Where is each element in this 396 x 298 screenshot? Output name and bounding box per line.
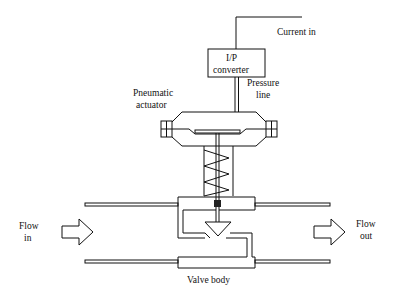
ip-label-line2: converter: [213, 65, 250, 75]
flow-out-label-line2: out: [360, 231, 373, 241]
flow-in-arrow: [62, 219, 93, 245]
flow-in-label-line1: Flow: [19, 221, 39, 231]
pressure-line: [235, 77, 239, 112]
pressure-label-line1: Pressure: [247, 78, 279, 88]
valve-plug: [205, 222, 231, 236]
pressure-label-line2: line: [256, 90, 270, 100]
ip-converter: I/P converter: [208, 49, 265, 77]
actuator-label-line2: actuator: [136, 100, 167, 110]
flow-out-arrow: [314, 219, 345, 245]
flow-in-label-line2: in: [24, 233, 32, 243]
current-in-label: Current in: [277, 27, 316, 37]
valve-body-label: Valve body: [187, 275, 230, 285]
flow-out-label-line1: Flow: [356, 219, 376, 229]
diaphragm: [195, 130, 240, 133]
control-valve-diagram: Current in I/P converter Pressure line P…: [0, 0, 396, 298]
actuator-label-line1: Pneumatic: [133, 88, 173, 98]
inlet-pipe: [85, 203, 178, 263]
ip-label-line1: I/P: [226, 53, 237, 63]
